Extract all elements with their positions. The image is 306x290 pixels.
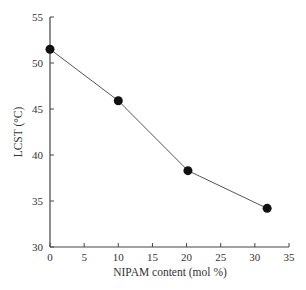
x-tick-label: 30 [249, 251, 261, 263]
y-tick-label: 55 [32, 11, 44, 23]
data-point [183, 166, 192, 175]
y-axis-label: LCST (°C) [12, 106, 25, 157]
series [46, 45, 272, 213]
y-tick-label: 30 [32, 241, 44, 253]
y-tick-label: 35 [32, 195, 44, 207]
x-tick-label: 25 [215, 251, 227, 263]
x-axis-label: NIPAM content (mol %) [113, 266, 227, 279]
x-tick-label: 15 [147, 251, 159, 263]
data-point [263, 204, 272, 213]
y-tick-label: 40 [32, 149, 44, 161]
x-ticks: 05101520253035 [47, 243, 295, 263]
x-tick-label: 0 [47, 251, 53, 263]
data-point [46, 45, 55, 54]
chart: 05101520253035 303540455055 NIPAM conten… [0, 0, 306, 290]
x-tick-label: 35 [284, 251, 296, 263]
x-tick-label: 5 [81, 251, 87, 263]
series-line [50, 49, 267, 208]
x-tick-label: 20 [181, 251, 193, 263]
y-tick-label: 45 [32, 103, 44, 115]
data-point [114, 96, 123, 105]
axes [50, 17, 289, 247]
x-tick-label: 10 [113, 251, 125, 263]
y-tick-label: 50 [32, 57, 44, 69]
